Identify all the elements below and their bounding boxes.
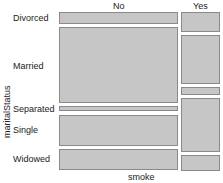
- x-axis-label: smoke: [128, 172, 155, 182]
- row-label-widowed: Widowed: [13, 154, 50, 164]
- row-label-single: Single: [13, 125, 38, 135]
- tile-yes-single: [181, 98, 220, 152]
- tile-no-married: [59, 27, 178, 103]
- tile-no-widowed: [59, 149, 178, 170]
- row-label-separated: Separated: [13, 104, 55, 114]
- row-label-divorced: Divorced: [13, 13, 49, 23]
- tile-no-single: [59, 115, 178, 146]
- tile-no-separated: [59, 106, 178, 111]
- tile-yes-widowed: [181, 155, 220, 171]
- y-axis-label: maritalStatus: [2, 85, 12, 138]
- tile-yes-married: [181, 35, 220, 84]
- row-label-married: Married: [13, 61, 44, 71]
- tile-no-divorced: [59, 12, 178, 24]
- tile-yes-divorced: [181, 12, 220, 32]
- col-label-yes: Yes: [193, 1, 208, 11]
- col-label-no: No: [113, 1, 125, 11]
- tile-yes-separated: [181, 87, 220, 95]
